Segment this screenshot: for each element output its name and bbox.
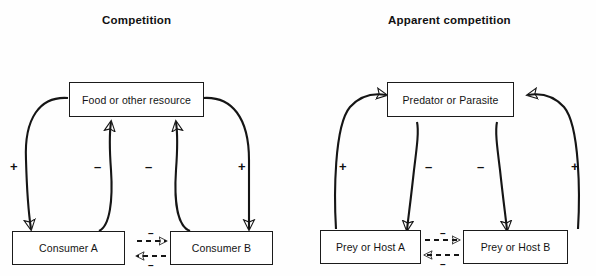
sign-minus-prey-a-to-prey-b: –	[440, 229, 446, 239]
link-resource-to-consumer-a	[26, 98, 68, 229]
sign-plus-resource-to-consumer-b: +	[238, 160, 246, 173]
sign-minus-predator-to-prey-a: –	[425, 160, 432, 173]
panel-title-apparent-competition: Apparent competition	[388, 14, 511, 26]
ecology-interaction-diagram: Competition Apparent competition Food or…	[0, 0, 596, 276]
link-predator-to-prey-a	[407, 122, 418, 230]
node-food-or-other-resource[interactable]: Food or other resource	[69, 82, 204, 117]
sign-minus-consumer-b-to-resource: –	[145, 160, 152, 173]
sign-minus-consumer-a-to-resource: –	[94, 160, 101, 173]
sign-minus-consumer-a-to-consumer-b: –	[148, 229, 154, 239]
sign-plus-prey-a-to-predator: +	[339, 160, 347, 173]
sign-minus-prey-b-to-prey-a: –	[440, 260, 446, 270]
node-predator-or-parasite[interactable]: Predator or Parasite	[387, 82, 514, 117]
link-predator-to-prey-b	[496, 122, 507, 230]
sign-minus-consumer-b-to-consumer-a: –	[148, 261, 154, 271]
link-consumer-a-to-resource	[99, 122, 112, 231]
sign-plus-resource-to-consumer-a: +	[10, 160, 18, 173]
node-prey-or-host-a[interactable]: Prey or Host A	[320, 230, 421, 264]
node-consumer-a[interactable]: Consumer A	[12, 231, 125, 265]
node-prey-or-host-b[interactable]: Prey or Host B	[463, 230, 568, 264]
node-consumer-b[interactable]: Consumer B	[170, 231, 273, 265]
link-consumer-b-to-resource	[175, 122, 190, 231]
sign-plus-prey-b-to-predator: +	[571, 160, 579, 173]
panel-title-competition: Competition	[102, 14, 171, 26]
sign-minus-predator-to-prey-b: –	[477, 160, 484, 173]
